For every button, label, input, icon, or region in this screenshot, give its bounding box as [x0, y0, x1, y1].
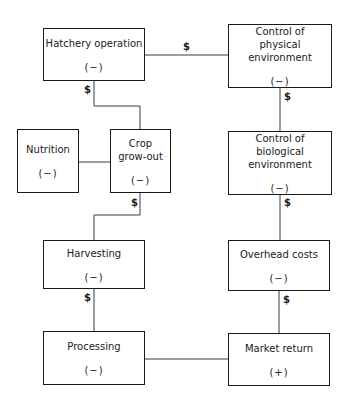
node-label: Nutrition	[26, 143, 70, 156]
node-sign: (−)	[38, 168, 57, 179]
node-sign: (−)	[270, 183, 289, 194]
node-label: Processing	[67, 340, 120, 353]
cost-label: $	[284, 197, 291, 208]
cost-label: $	[283, 294, 290, 305]
node-sign: (−)	[84, 365, 103, 376]
cost-label: $	[84, 84, 91, 95]
node-harvesting: Harvesting (−)	[43, 240, 145, 289]
node-overhead-costs: Overhead costs (−)	[228, 240, 330, 291]
node-sign: (−)	[84, 272, 103, 283]
node-hatchery-operation: Hatchery operation (−)	[43, 28, 145, 81]
node-sign: (−)	[131, 175, 150, 186]
node-label: Harvesting	[67, 247, 121, 260]
node-nutrition: Nutrition (−)	[17, 129, 79, 193]
cost-label: $	[84, 292, 91, 303]
node-processing: Processing (−)	[43, 331, 145, 385]
node-label: Overhead costs	[240, 248, 318, 261]
node-sign: (+)	[269, 367, 288, 378]
node-label: Crop grow-out	[116, 137, 166, 163]
node-market-return: Market return (+)	[228, 333, 330, 386]
cost-label: $	[183, 41, 190, 52]
node-sign: (−)	[84, 62, 103, 73]
node-sign: (−)	[270, 76, 289, 87]
node-label: Hatchery operation	[46, 37, 143, 50]
cost-label: $	[284, 91, 291, 102]
cost-label: $	[131, 197, 138, 208]
node-control-biological-environment: Control of biological environment (−)	[228, 131, 332, 195]
node-label: Control of biological environment	[231, 132, 329, 171]
node-label: Market return	[245, 342, 313, 355]
node-control-physical-environment: Control of physical environment (−)	[228, 24, 332, 88]
node-label: Control of physical environment	[235, 25, 325, 64]
node-crop-grow-out: Crop grow-out (−)	[110, 129, 171, 193]
node-sign: (−)	[269, 273, 288, 284]
